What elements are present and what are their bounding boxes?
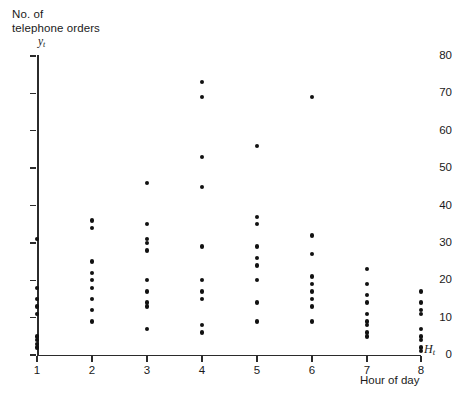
data-point xyxy=(310,233,314,237)
plot-area xyxy=(0,0,452,401)
data-point xyxy=(90,271,94,275)
y-tick-label: 0 xyxy=(426,349,452,361)
data-point xyxy=(200,244,204,248)
data-point xyxy=(365,300,369,304)
x-tick-mark xyxy=(201,356,202,362)
data-point xyxy=(419,334,423,338)
y-tick-mark xyxy=(30,317,36,318)
data-point xyxy=(145,237,149,241)
data-point xyxy=(145,248,149,252)
y-axis-line xyxy=(37,55,39,356)
x-tick-label: 4 xyxy=(191,364,213,376)
y-tick-label: 10 xyxy=(426,312,452,324)
data-point xyxy=(200,297,204,301)
y-axis-title: No. of telephone orders xyxy=(12,8,100,35)
x-tick-mark xyxy=(36,356,37,362)
data-point xyxy=(200,289,204,293)
data-point xyxy=(145,278,149,282)
data-point xyxy=(90,286,94,290)
data-point xyxy=(255,263,259,267)
y-tick-mark xyxy=(30,242,36,243)
data-point xyxy=(365,334,369,338)
data-point xyxy=(90,218,94,222)
y-axis-symbol: yt xyxy=(38,35,45,49)
x-tick-mark xyxy=(91,356,92,362)
data-point xyxy=(310,252,314,256)
data-point xyxy=(200,155,204,159)
data-point xyxy=(145,241,149,245)
data-point xyxy=(145,222,149,226)
x-tick-label: 6 xyxy=(301,364,323,376)
data-point xyxy=(255,256,259,260)
data-point xyxy=(90,308,94,312)
y-tick-mark xyxy=(30,167,36,168)
data-point xyxy=(310,274,314,278)
x-tick-label: 2 xyxy=(81,364,103,376)
x-tick-mark xyxy=(146,356,147,362)
y-tick-mark xyxy=(30,280,36,281)
y-tick-mark xyxy=(30,93,36,94)
data-point xyxy=(255,215,259,219)
data-point xyxy=(310,289,314,293)
data-point xyxy=(255,222,259,226)
y-tick-label: 80 xyxy=(426,50,452,62)
y-tick-mark xyxy=(30,205,36,206)
data-point xyxy=(200,185,204,189)
y-tick-label: 70 xyxy=(426,87,452,99)
data-point xyxy=(419,308,423,312)
data-point xyxy=(365,319,369,323)
data-point xyxy=(200,80,204,84)
data-point xyxy=(255,144,259,148)
data-point xyxy=(200,323,204,327)
data-point xyxy=(365,267,369,271)
data-point xyxy=(145,181,149,185)
y-tick-label: 30 xyxy=(426,237,452,249)
data-point xyxy=(90,297,94,301)
data-point xyxy=(310,297,314,301)
y-tick-mark xyxy=(30,354,36,355)
y-tick-mark xyxy=(30,55,36,56)
data-point xyxy=(310,319,314,323)
data-point xyxy=(200,95,204,99)
x-tick-mark xyxy=(256,356,257,362)
data-point xyxy=(365,293,369,297)
x-axis-line xyxy=(37,355,421,357)
data-point xyxy=(365,312,369,316)
data-point xyxy=(310,282,314,286)
data-point xyxy=(200,330,204,334)
data-point xyxy=(255,300,259,304)
data-point xyxy=(255,244,259,248)
data-point xyxy=(310,304,314,308)
data-point xyxy=(200,278,204,282)
scatter-plot-figure: No. of telephone orders yt Ht Hour of da… xyxy=(0,0,452,401)
data-point xyxy=(365,282,369,286)
data-point xyxy=(310,95,314,99)
y-tick-mark xyxy=(30,130,36,131)
x-tick-label: 8 xyxy=(410,364,432,376)
data-point xyxy=(90,278,94,282)
data-point xyxy=(419,289,423,293)
y-tick-label: 50 xyxy=(426,162,452,174)
y-tick-label: 60 xyxy=(426,125,452,137)
data-point xyxy=(419,345,423,349)
data-point xyxy=(365,323,369,327)
x-tick-mark xyxy=(366,356,367,362)
y-axis-symbol-subscript: t xyxy=(43,40,45,49)
data-point xyxy=(255,278,259,282)
data-point xyxy=(255,319,259,323)
data-point xyxy=(365,330,369,334)
x-tick-label: 1 xyxy=(26,364,48,376)
data-point xyxy=(145,289,149,293)
x-tick-label: 7 xyxy=(356,364,378,376)
data-point xyxy=(90,226,94,230)
data-point xyxy=(90,319,94,323)
data-point xyxy=(145,327,149,331)
data-point xyxy=(90,259,94,263)
data-point xyxy=(145,304,149,308)
data-point xyxy=(419,349,423,353)
x-tick-mark xyxy=(420,356,421,362)
x-tick-label: 5 xyxy=(246,364,268,376)
data-point xyxy=(419,300,423,304)
data-point xyxy=(145,300,149,304)
data-point xyxy=(419,338,423,342)
